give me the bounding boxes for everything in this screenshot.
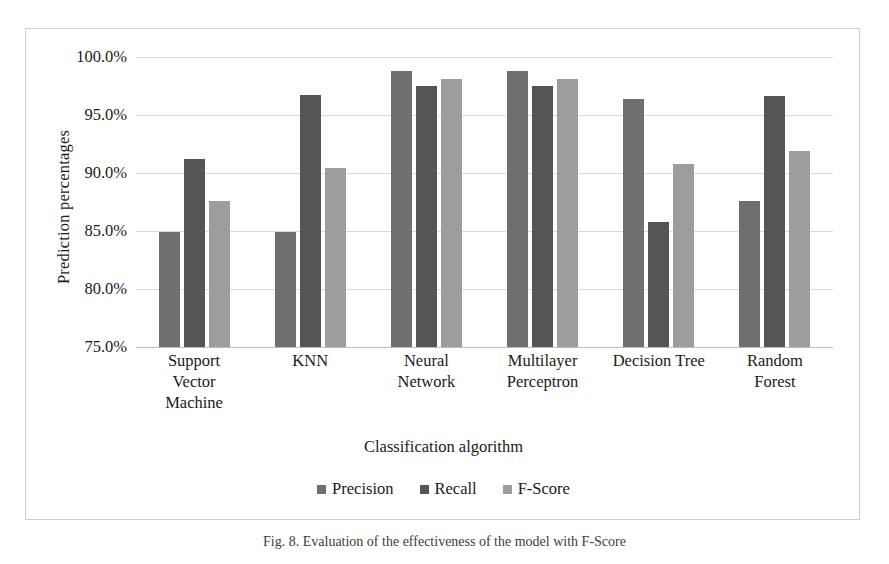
bars-layer [136, 57, 833, 347]
bar[interactable] [673, 164, 694, 347]
bar[interactable] [623, 99, 644, 347]
y-axis-title: Prediction percentages [54, 107, 74, 307]
x-axis-tick-label: Random Forest [717, 351, 833, 393]
bar[interactable] [739, 201, 760, 347]
bar[interactable] [184, 159, 205, 347]
bar-group [136, 57, 252, 347]
x-axis-tick-label: KNN [252, 351, 368, 372]
y-axis-tick-label: 90.0% [84, 163, 127, 183]
bar-group [601, 57, 717, 347]
legend-swatch-icon [503, 485, 512, 494]
y-axis-tick-label: 80.0% [84, 279, 127, 299]
legend-item[interactable]: Recall [420, 479, 477, 499]
bar-group [252, 57, 368, 347]
bar[interactable] [507, 71, 528, 347]
legend-label: Recall [435, 479, 477, 499]
bar[interactable] [391, 71, 412, 347]
chart-legend: PrecisionRecallF-Score [26, 479, 861, 499]
x-axis-line [136, 347, 833, 348]
x-axis-title: Classification algorithm [26, 437, 861, 457]
legend-swatch-icon [317, 485, 326, 494]
plot-area: 100.0%95.0%90.0%85.0%80.0%75.0% [136, 57, 833, 347]
legend-label: Precision [332, 479, 393, 499]
legend-item[interactable]: Precision [317, 479, 393, 499]
bar[interactable] [275, 232, 296, 347]
bar-group [368, 57, 484, 347]
bar-group [717, 57, 833, 347]
legend-label: F-Score [518, 479, 570, 499]
bar[interactable] [325, 168, 346, 347]
bar[interactable] [557, 79, 578, 347]
x-axis-tick-label: Decision Tree [601, 351, 717, 372]
x-axis-tick-labels: Support Vector MachineKNNNeural NetworkM… [136, 351, 833, 439]
y-axis-tick-label: 95.0% [84, 105, 127, 125]
bar[interactable] [789, 151, 810, 347]
bar[interactable] [441, 79, 462, 347]
figure-caption: Fig. 8. Evaluation of the effectiveness … [0, 534, 889, 550]
bar[interactable] [532, 86, 553, 347]
bar[interactable] [764, 96, 785, 347]
x-axis-tick-label: Neural Network [368, 351, 484, 393]
x-axis-tick-label: Support Vector Machine [136, 351, 252, 414]
bar[interactable] [159, 232, 180, 347]
bar[interactable] [416, 86, 437, 347]
legend-item[interactable]: F-Score [503, 479, 570, 499]
y-axis-tick-label: 100.0% [76, 47, 127, 67]
x-axis-tick-label: Multilayer Perceptron [485, 351, 601, 393]
y-axis-tick-label: 75.0% [84, 337, 127, 357]
y-axis-tick-label: 85.0% [84, 221, 127, 241]
figure-frame: Prediction percentages 100.0%95.0%90.0%8… [25, 28, 860, 520]
bar[interactable] [648, 222, 669, 347]
bar-group [485, 57, 601, 347]
bar[interactable] [209, 201, 230, 347]
legend-swatch-icon [420, 485, 429, 494]
bar[interactable] [300, 95, 321, 347]
